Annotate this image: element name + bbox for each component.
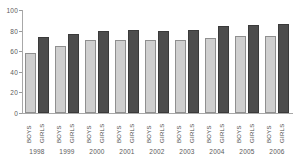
bar-group [83, 10, 113, 113]
bar-boys [235, 36, 246, 113]
x-axis-group: BOYSGIRLS2005 [233, 114, 263, 157]
series-label-girls: GIRLS [99, 113, 106, 143]
y-axis-tick-mark [19, 10, 22, 11]
series-label-boys: BOYS [236, 113, 243, 143]
series-label-boys: BOYS [116, 113, 123, 143]
series-label-girls: GIRLS [189, 113, 196, 143]
bar-boys [205, 38, 216, 113]
series-label-girls: GIRLS [249, 113, 256, 143]
bar-group [113, 10, 143, 113]
x-axis-year-label: 2000 [83, 148, 111, 156]
x-axis-group: BOYSGIRLS2001 [113, 114, 143, 157]
bar-girls [218, 26, 229, 113]
bar-girls [38, 37, 49, 113]
y-axis-tick-label: 20 [0, 89, 18, 96]
series-label-girls: GIRLS [219, 113, 226, 143]
y-axis-tick-mark [19, 113, 22, 114]
bar-boys [25, 53, 36, 113]
series-label-girls: GIRLS [279, 113, 286, 143]
bar-group [23, 10, 53, 113]
series-label-boys: BOYS [206, 113, 213, 143]
x-axis-group: BOYSGIRLS1999 [53, 114, 83, 157]
series-label-girls: GIRLS [69, 113, 76, 143]
series-label-girls: GIRLS [39, 113, 46, 143]
bar-group [263, 10, 293, 113]
x-axis-group: BOYSGIRLS2003 [173, 114, 203, 157]
series-label-boys: BOYS [176, 113, 183, 143]
y-axis-tick-label: 80 [0, 27, 18, 34]
x-axis-group: BOYSGIRLS2000 [83, 114, 113, 157]
bar-boys [85, 40, 96, 113]
bar-boys [265, 36, 276, 113]
bar-group [53, 10, 83, 113]
x-axis-year-label: 1998 [23, 148, 51, 156]
bar-group [143, 10, 173, 113]
x-axis-year-label: 2001 [113, 148, 141, 156]
x-axis-group: BOYSGIRLS1998 [23, 114, 53, 157]
x-axis-year-label: 1999 [53, 148, 81, 156]
y-axis: 020406080100 [0, 0, 18, 157]
y-axis-tick-label: 60 [0, 48, 18, 55]
y-axis-tick-label: 100 [0, 7, 18, 14]
bar-girls [128, 30, 139, 113]
plot-area [23, 10, 293, 113]
bar-girls [98, 31, 109, 113]
bar-boys [145, 40, 156, 113]
y-axis-tick-label: 40 [0, 68, 18, 75]
x-axis: BOYSGIRLS1998BOYSGIRLS1999BOYSGIRLS2000B… [23, 114, 293, 157]
y-axis-tick-mark [19, 51, 22, 52]
series-label-boys: BOYS [86, 113, 93, 143]
x-axis-year-label: 2005 [233, 148, 261, 156]
bar-girls [158, 31, 169, 113]
series-label-boys: BOYS [266, 113, 273, 143]
x-axis-year-label: 2002 [143, 148, 171, 156]
bar-girls [248, 25, 259, 113]
bar-group [173, 10, 203, 113]
bar-boys [175, 40, 186, 113]
bar-girls [278, 24, 289, 113]
y-axis-tick-label: 0 [0, 110, 18, 117]
bar-chart: 020406080100 BOYSGIRLS1998BOYSGIRLS1999B… [0, 0, 294, 157]
y-axis-tick-mark [19, 31, 22, 32]
y-axis-tick-mark [19, 72, 22, 73]
bar-boys [55, 46, 66, 113]
bar-girls [68, 34, 79, 113]
bar-girls [188, 30, 199, 113]
series-label-boys: BOYS [146, 113, 153, 143]
x-axis-year-label: 2006 [263, 148, 291, 156]
x-axis-year-label: 2003 [173, 148, 201, 156]
x-axis-group: BOYSGIRLS2004 [203, 114, 233, 157]
series-label-girls: GIRLS [129, 113, 136, 143]
x-axis-year-label: 2004 [203, 148, 231, 156]
bar-boys [115, 40, 126, 113]
bar-group [203, 10, 233, 113]
y-axis-tick-mark [19, 92, 22, 93]
bar-group [233, 10, 263, 113]
x-axis-group: BOYSGIRLS2006 [263, 114, 293, 157]
x-axis-group: BOYSGIRLS2002 [143, 114, 173, 157]
series-label-boys: BOYS [26, 113, 33, 143]
series-label-girls: GIRLS [159, 113, 166, 143]
series-label-boys: BOYS [56, 113, 63, 143]
